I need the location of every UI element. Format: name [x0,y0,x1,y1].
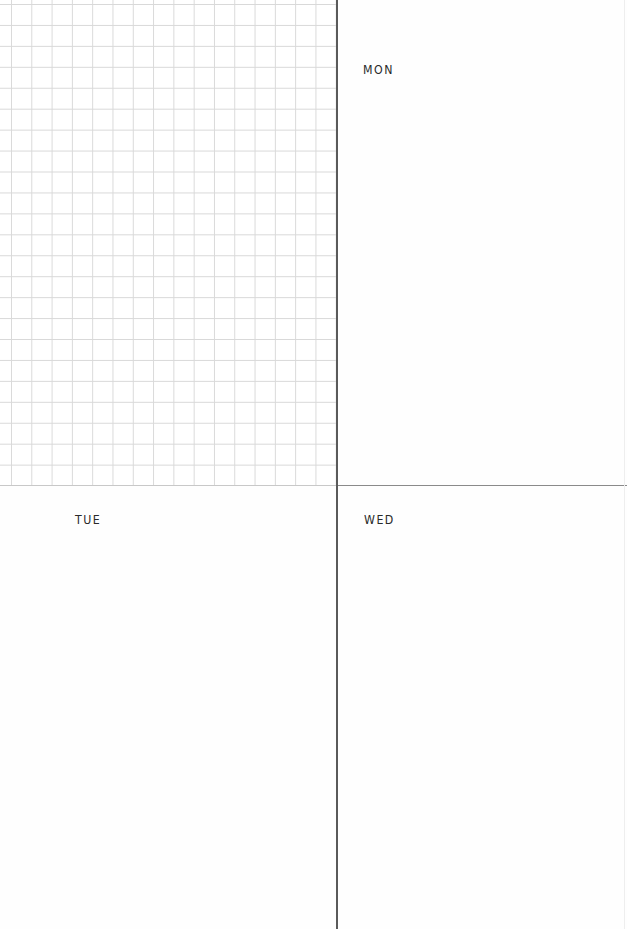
page-edge [624,0,625,929]
day-label-wed: WED [364,513,395,527]
horizontal-divider [338,485,627,486]
day-label-tue: TUE [75,513,101,527]
day-label-mon: MON [363,63,394,77]
grid-notes-area[interactable] [0,0,336,485]
planner-page: MON TUE WED [0,0,627,929]
day-section-wed[interactable] [338,486,627,929]
day-section-tue[interactable] [0,486,336,929]
grid-paper [0,0,337,486]
vertical-divider [336,0,338,929]
